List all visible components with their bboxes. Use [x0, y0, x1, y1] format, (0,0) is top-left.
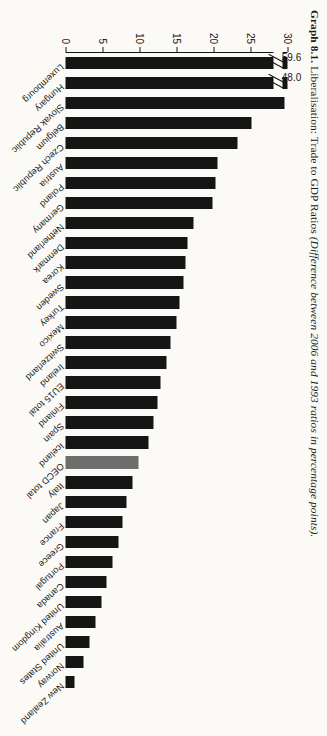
- bar-value-label: 48.0: [281, 72, 300, 83]
- bar[interactable]: [65, 77, 287, 89]
- caption-number: Graph 8.1.: [308, 10, 320, 63]
- bar-group[interactable]: 48.0Hungary: [65, 77, 287, 89]
- bar[interactable]: [65, 516, 122, 528]
- bar[interactable]: [65, 157, 217, 169]
- bar-group[interactable]: Spain: [65, 416, 287, 428]
- bar-group[interactable]: Switzerland: [65, 336, 287, 348]
- bar[interactable]: [65, 496, 126, 508]
- bar[interactable]: [65, 57, 287, 69]
- bar[interactable]: [65, 237, 187, 249]
- bar-group[interactable]: Belgium: [65, 117, 287, 129]
- bar[interactable]: [65, 616, 95, 628]
- bar-group[interactable]: 59.6Luxembourg: [65, 57, 287, 69]
- bar-group[interactable]: France: [65, 516, 287, 528]
- rotated-figure: Graph 8.1. Liberalisation: Trade to GDP …: [0, 0, 327, 736]
- bar-group[interactable]: Sweden: [65, 276, 287, 288]
- bar-group[interactable]: Finland: [65, 396, 287, 408]
- bar[interactable]: [65, 556, 112, 568]
- bar-group[interactable]: Ireland: [65, 356, 287, 368]
- bar[interactable]: [65, 217, 193, 229]
- axis-tick-label: 20: [208, 33, 219, 44]
- axis-tick: 20: [213, 47, 214, 52]
- bar[interactable]: [65, 336, 170, 348]
- bar[interactable]: [65, 177, 215, 189]
- bar-group[interactable]: Korea: [65, 256, 287, 268]
- bar[interactable]: [65, 596, 101, 608]
- bar-group[interactable]: Greece: [65, 536, 287, 548]
- bar-group[interactable]: New Zealand: [65, 676, 287, 688]
- bar-group[interactable]: Turkey: [65, 296, 287, 308]
- bar-group[interactable]: Denmark: [65, 237, 287, 249]
- bar-group[interactable]: Germany: [65, 197, 287, 209]
- axis-tick-label: 0: [60, 38, 71, 44]
- bar-group[interactable]: Iceland: [65, 436, 287, 448]
- bar[interactable]: [65, 256, 185, 268]
- caption-title: Liberalisation: Trade to GDP Ratios: [308, 63, 320, 237]
- bar-group[interactable]: OECD total: [65, 456, 287, 468]
- bar[interactable]: [65, 117, 251, 129]
- bar[interactable]: [65, 137, 237, 149]
- axis-tick: 0: [65, 47, 66, 52]
- bar-series: 59.6Luxembourg48.0HungarySlovak Republic…: [65, 53, 287, 692]
- bar[interactable]: [65, 396, 157, 408]
- axis-tick: 5: [102, 47, 103, 52]
- bar[interactable]: [65, 276, 183, 288]
- bar-value-label: 59.6: [281, 52, 300, 63]
- bar-group[interactable]: Norway: [65, 656, 287, 668]
- bar-group[interactable]: Austria: [65, 157, 287, 169]
- bar[interactable]: [65, 416, 153, 428]
- bar[interactable]: [65, 676, 74, 688]
- bar-group[interactable]: Portugal: [65, 556, 287, 568]
- bar[interactable]: [65, 97, 284, 109]
- plot-area: 051015202530 59.6Luxembourg48.0HungarySl…: [65, 52, 287, 692]
- bar-group[interactable]: Czech Republic: [65, 137, 287, 149]
- bar[interactable]: [65, 636, 89, 648]
- bar[interactable]: [65, 536, 118, 548]
- bar-group[interactable]: Slovak Republic: [65, 97, 287, 109]
- bar-group[interactable]: Poland: [65, 177, 287, 189]
- bar[interactable]: [65, 656, 83, 668]
- axis-break-mask: [273, 72, 282, 94]
- bar-group[interactable]: Italy: [65, 476, 287, 488]
- bar[interactable]: [65, 576, 106, 588]
- axis-tick-label: 5: [97, 38, 108, 44]
- bar[interactable]: [65, 296, 179, 308]
- axis-tick-label: 25: [245, 33, 256, 44]
- bar-group[interactable]: Australia: [65, 616, 287, 628]
- bar[interactable]: [65, 376, 160, 388]
- bar-group[interactable]: Japan: [65, 496, 287, 508]
- bar-group[interactable]: Netherland: [65, 217, 287, 229]
- figure-caption: Graph 8.1. Liberalisation: Trade to GDP …: [307, 10, 321, 726]
- figure: Graph 8.1. Liberalisation: Trade to GDP …: [0, 0, 327, 736]
- bar[interactable]: [65, 197, 212, 209]
- bar[interactable]: [65, 456, 138, 468]
- bar-group[interactable]: United States: [65, 636, 287, 648]
- bar-group[interactable]: Mexico: [65, 316, 287, 328]
- category-label: Japan: [40, 501, 66, 526]
- bar[interactable]: [65, 436, 148, 448]
- axis-tick-label: 30: [282, 33, 293, 44]
- caption-subtitle: (Difference between 2006 and 1993 ratios…: [308, 237, 320, 538]
- axis-tick-label: 10: [134, 33, 145, 44]
- bar-group[interactable]: Canada: [65, 576, 287, 588]
- bar-group[interactable]: United Kingdom: [65, 596, 287, 608]
- axis-tick: 15: [176, 47, 177, 52]
- bar[interactable]: [65, 356, 166, 368]
- axis-tick-label: 15: [171, 33, 182, 44]
- axis-tick: 25: [250, 47, 251, 52]
- axis-break-mask: [273, 52, 282, 74]
- axis-tick: 10: [139, 47, 140, 52]
- bar[interactable]: [65, 476, 132, 488]
- bar-group[interactable]: EU15 total: [65, 376, 287, 388]
- bar[interactable]: [65, 316, 176, 328]
